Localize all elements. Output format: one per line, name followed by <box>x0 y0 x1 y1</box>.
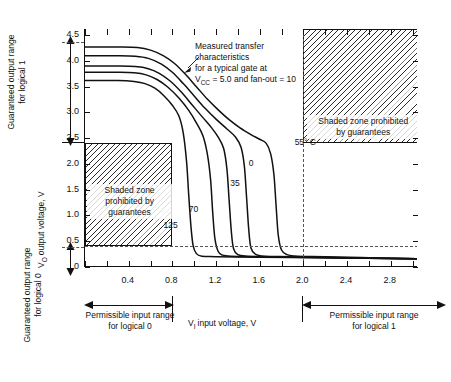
zone-left-line3: guarantees <box>108 207 151 217</box>
in1-range-start-rule <box>302 296 303 322</box>
right-tick-mark <box>413 138 418 139</box>
shaded-zone-logical-1-label: Shaded zone prohibited by guarantees <box>307 115 417 139</box>
x-tick-mark <box>238 261 239 267</box>
x-tick-mark <box>303 261 304 267</box>
x-tick-label: 2.4 <box>333 275 359 285</box>
y-tick-mark <box>85 164 90 165</box>
top-tick-mark <box>151 29 152 35</box>
measured-transfer-leader-arrow <box>181 55 201 77</box>
zone-left-line1: Shaded zone <box>105 185 155 195</box>
note-vcc-value: = 5.0 and fan-out = 10 <box>210 74 296 84</box>
y-tick-mark <box>85 241 90 242</box>
perm-in-1-line2: for logical 1 <box>352 321 395 331</box>
right-tick-mark <box>413 215 418 216</box>
curve-label-35: 35 <box>230 178 239 189</box>
curve-label-125: 125 <box>164 220 178 231</box>
top-tick-mark <box>238 29 239 35</box>
curve-label-70: 70 <box>189 204 198 215</box>
permissible-input-range-logical-0-label: Permissible input range for logical 0 <box>84 310 176 332</box>
curve-label-0: 0 <box>249 158 254 169</box>
x-tick-label: 2.8 <box>377 275 403 285</box>
top-tick-mark <box>260 29 261 35</box>
top-tick-mark <box>194 29 195 35</box>
guaranteed-out-0-line2: for logical 0 <box>33 273 43 316</box>
top-tick-mark <box>129 29 130 35</box>
y-tick-mark <box>85 267 90 268</box>
x-tick-mark <box>369 261 370 267</box>
y-axis-subscript: O <box>41 257 48 262</box>
y-tick-mark <box>85 35 90 36</box>
in1-range-bar <box>306 305 442 306</box>
y-axis-symbol: V <box>36 262 46 268</box>
top-tick-mark <box>325 29 326 35</box>
plot-clip: Shaded zone prohibited by guarantees Sha… <box>85 29 417 266</box>
top-tick-mark <box>391 29 392 35</box>
note-vcc-subscript: CC <box>201 78 210 85</box>
measured-transfer-annotation: Measured transfer characteristics for a … <box>195 41 296 87</box>
x-tick-label: 1.6 <box>246 275 272 285</box>
guaranteed-out-0-line1: Guaranteed output range <box>22 248 32 343</box>
curve-label-minus-55: 55° C <box>295 137 316 148</box>
note-line1: Measured transfer <box>195 41 264 51</box>
zone-left-line2: prohibited by <box>105 196 154 206</box>
guaranteed-output-range-logical-1-label: Guaranteed output range for logical 1 <box>6 12 27 152</box>
y-axis-title: VOoutput voltage, V <box>36 128 49 268</box>
in0-range-arrow-left <box>84 300 94 310</box>
x-tick-mark <box>194 261 195 267</box>
x-tick-mark <box>107 261 108 267</box>
y-tick-label: 0 <box>57 261 79 271</box>
right-tick-mark <box>413 164 418 165</box>
x-tick-label: 0.8 <box>158 275 184 285</box>
x-tick-mark <box>260 261 261 267</box>
note-line4: VCC = 5.0 and fan-out = 10 <box>195 74 296 84</box>
vol-reference-dashed-line <box>85 246 417 247</box>
y-tick-label: 1.0 <box>57 209 79 219</box>
perm-in-0-line1: Permissible input range <box>86 310 175 320</box>
perm-in-0-line2: for logical 0 <box>108 321 151 331</box>
out0-range-top-dash <box>62 247 84 248</box>
y-tick-mark <box>85 87 90 88</box>
top-tick-mark <box>347 29 348 35</box>
y-tick-label: 2.0 <box>57 158 79 168</box>
top-tick-mark <box>369 29 370 35</box>
guaranteed-out-1-line1: Guaranteed output range <box>6 35 16 130</box>
y-tick-mark <box>85 112 90 113</box>
in0-range-bar <box>88 305 170 306</box>
y-axis-title-text: output voltage, V <box>36 191 46 255</box>
right-tick-mark <box>413 61 418 62</box>
y-tick-mark <box>85 215 90 216</box>
top-tick-mark <box>172 29 173 35</box>
y-tick-label: 3.5 <box>57 81 79 91</box>
note-line2: characteristics <box>195 52 249 62</box>
in1-range-arrow-right <box>436 300 446 310</box>
in1-range-arrow-left <box>302 300 312 310</box>
out1-range-top-dash <box>62 42 84 43</box>
permissible-input-range-logical-1-label: Permissible input range for logical 1 <box>306 310 442 332</box>
top-tick-mark <box>282 29 283 35</box>
x-tick-label: 1.2 <box>202 275 228 285</box>
y-tick-label: 4.5 <box>57 29 79 39</box>
x-tick-mark <box>129 261 130 267</box>
x-tick-mark <box>172 261 173 267</box>
zone-right-line1: Shaded zone prohibited <box>318 116 408 126</box>
top-tick-mark <box>107 29 108 35</box>
right-tick-mark <box>413 190 418 191</box>
plot-area: Shaded zone prohibited by guarantees Sha… <box>84 29 417 267</box>
y-tick-label: 0.5 <box>57 235 79 245</box>
shaded-zone-logical-0-label: Shaded zone prohibited by guarantees <box>87 184 172 219</box>
right-tick-mark <box>413 267 418 268</box>
y-tick-mark <box>85 138 90 139</box>
top-tick-mark <box>303 29 304 35</box>
note-line3: for a typical gate at <box>195 63 267 73</box>
x-tick-mark <box>347 261 348 267</box>
y-tick-label: 1.5 <box>57 184 79 194</box>
top-tick-mark <box>85 29 86 35</box>
right-tick-mark <box>413 87 418 88</box>
perm-in-1-line1: Permissible input range <box>330 310 419 320</box>
x-axis-title-text: input voltage, V <box>198 318 257 328</box>
top-tick-mark <box>413 29 414 35</box>
top-tick-mark <box>216 29 217 35</box>
x-tick-label: 0.4 <box>115 275 141 285</box>
x-axis-title: VIinput voltage, V <box>188 318 256 331</box>
x-tick-mark <box>391 261 392 267</box>
